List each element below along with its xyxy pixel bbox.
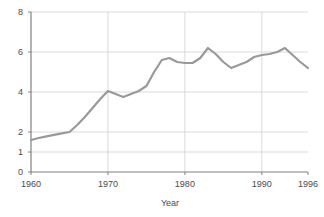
axis-ticks: [28, 12, 308, 175]
y-axis-tick-label: 8: [5, 8, 23, 17]
gridlines-horizontal: [31, 12, 308, 152]
data-series-line: [31, 48, 308, 140]
x-axis-tick-label: 1996: [288, 180, 324, 189]
x-axis-title: Year: [130, 199, 210, 208]
x-axis-tick-label: 1970: [88, 180, 128, 189]
y-axis-tick-label: 1: [5, 148, 23, 157]
x-axis-tick-label: 1980: [165, 180, 205, 189]
x-axis-tick-label: 1990: [242, 180, 282, 189]
y-axis-tick-label: 4: [5, 88, 23, 97]
line-chart: 012468 19601970198019901996 Year: [0, 0, 324, 217]
y-axis-tick-label: 2: [5, 128, 23, 137]
y-axis-tick-label: 6: [5, 48, 23, 57]
series-value-line: [31, 48, 308, 140]
x-axis-tick-label: 1960: [11, 180, 51, 189]
y-axis-tick-label: 0: [5, 168, 23, 177]
